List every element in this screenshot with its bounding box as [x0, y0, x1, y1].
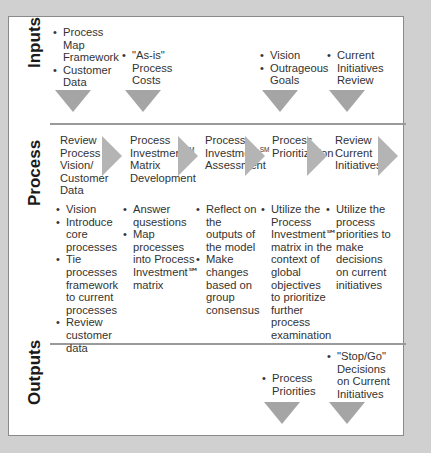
output-item-2: "Stop/Go" Decisions on Current Initiativ…	[327, 350, 399, 400]
process-bullet: Utilize the process priorities to make d…	[326, 203, 394, 291]
section-label-inputs: Inputs	[25, 17, 45, 68]
arrow-down-icon	[264, 402, 300, 424]
input-bullet: Current Initiatives Review	[327, 49, 397, 87]
process-bullet: Utilize the Process Investment℠ matrix i…	[261, 203, 333, 342]
input-item-4: Vision Outrageous Goals	[260, 49, 330, 87]
output-bullet: "Stop/Go" Decisions on Current Initiativ…	[327, 350, 399, 400]
process-bullet: Make changes based on group consensus	[196, 253, 258, 316]
process-bullet: Reflect on the outputs of the model	[196, 203, 258, 253]
output-bullet: Process Priorities	[262, 372, 328, 397]
input-bullet: Outrageous Goals	[260, 62, 330, 87]
input-item-5: Current Initiatives Review	[327, 49, 397, 87]
arrow-down-icon	[329, 402, 365, 424]
input-bullet: Vision	[260, 49, 330, 62]
process-step-4-bullets: Utilize the Process Investment℠ matrix i…	[261, 203, 333, 342]
arrow-right-icon	[178, 136, 198, 176]
process-bullet: Vision	[56, 203, 126, 216]
process-bullet: Map processes into Process Investment℠ m…	[123, 228, 198, 291]
arrow-down-icon	[55, 90, 91, 112]
section-label-outputs: Outputs	[25, 340, 45, 405]
input-bullet: Process Map Framework	[53, 26, 123, 64]
arrow-right-icon	[245, 136, 265, 176]
output-item-1: Process Priorities	[262, 372, 328, 397]
process-bullet: Tie processes framework to current proce…	[56, 253, 126, 316]
process-bullet: Review customer data	[56, 316, 126, 354]
arrow-right-icon	[378, 136, 398, 176]
process-step-3-bullets: Reflect on the outputs of the model Make…	[196, 203, 258, 316]
arrow-down-icon	[329, 90, 365, 112]
input-item-2: "As-is" Process Costs	[122, 49, 192, 87]
process-step-1-bullets: Vision Introduce core processes Tie proc…	[56, 203, 126, 354]
arrow-down-icon	[125, 90, 161, 112]
arrow-down-icon	[262, 90, 298, 112]
title-part: Process Investment	[130, 134, 185, 159]
arrow-right-icon	[307, 136, 327, 176]
process-step-5-bullets: Utilize the process priorities to make d…	[326, 203, 394, 291]
divider-inputs-process	[50, 123, 406, 125]
input-bullet: "As-is" Process Costs	[122, 49, 192, 87]
process-bullet: Introduce core processes	[56, 216, 126, 254]
input-bullet: Customer Data	[53, 64, 123, 89]
process-bullet: Answer qusestions	[123, 203, 198, 228]
input-item-1: Process Map Framework Customer Data	[53, 26, 123, 89]
arrow-right-icon	[102, 136, 122, 176]
process-step-2-bullets: Answer qusestions Map processes into Pro…	[123, 203, 198, 291]
section-label-process: Process	[25, 140, 45, 206]
